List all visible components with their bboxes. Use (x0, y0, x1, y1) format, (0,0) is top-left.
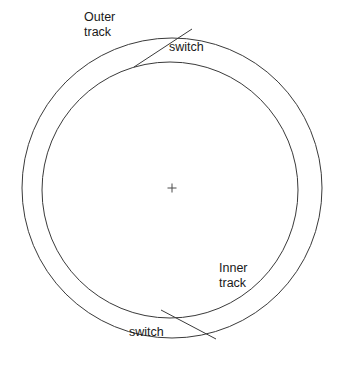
switch-line-bottom (161, 310, 216, 339)
track-diagram-canvas (0, 0, 340, 365)
center-cross-mark (168, 184, 177, 193)
track-diagram: Outer track switch Inner track switch (0, 0, 340, 365)
switch-bottom-label: switch (129, 325, 164, 340)
outer-track-label: Outer track (84, 10, 115, 39)
switch-top-label: switch (169, 40, 204, 55)
inner-track-label: Inner track (219, 261, 248, 290)
inner-track-circle (42, 62, 298, 318)
